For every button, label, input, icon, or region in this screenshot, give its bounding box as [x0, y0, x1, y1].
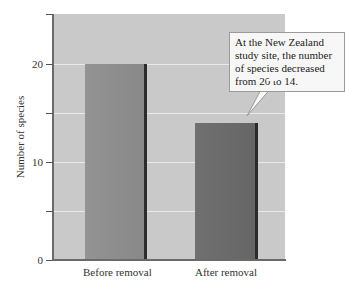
y-tick-label-10: 10 [32, 157, 43, 168]
x-axis [52, 259, 286, 261]
bar-shadow-edge [255, 123, 258, 260]
bar-shadow-edge [144, 64, 147, 260]
x-label-before-removal: Before removal [83, 266, 151, 278]
bar-before-removal [85, 64, 147, 260]
y-axis [52, 14, 54, 261]
y-tick-label-0: 0 [38, 255, 44, 266]
x-label-after-removal: After removal [192, 266, 260, 278]
y-tick-10 [46, 162, 53, 163]
y-tick-0 [46, 260, 53, 261]
y-tick-5 [46, 211, 53, 212]
y-tick-20 [46, 64, 53, 65]
annotation-callout: At the New Zealand study site, the numbe… [229, 32, 345, 92]
y-tick-25 [46, 14, 53, 15]
y-axis-label: Number of species [14, 96, 26, 178]
y-tick-15 [46, 113, 53, 114]
bar-after-removal [195, 123, 258, 260]
y-tick-label-20: 20 [32, 59, 43, 70]
